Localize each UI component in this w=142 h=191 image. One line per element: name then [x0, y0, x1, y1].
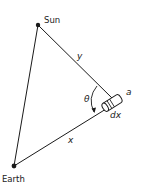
sun-element-line	[38, 25, 113, 99]
sun-earth-line	[14, 25, 38, 166]
sun-dot-icon	[36, 23, 40, 27]
radius-a-label: a	[126, 87, 132, 97]
x-label: x	[67, 135, 74, 145]
earth-label: Earth	[2, 174, 25, 184]
theta-label: θ	[84, 94, 90, 104]
earth-dot-icon	[12, 164, 17, 169]
y-label: y	[76, 51, 83, 61]
sun-earth-diagram: Sun Earth y x θ a dx	[0, 0, 142, 191]
earth-element-line	[14, 109, 106, 166]
sun-label: Sun	[44, 15, 60, 25]
length-dx-label: dx	[110, 110, 122, 120]
